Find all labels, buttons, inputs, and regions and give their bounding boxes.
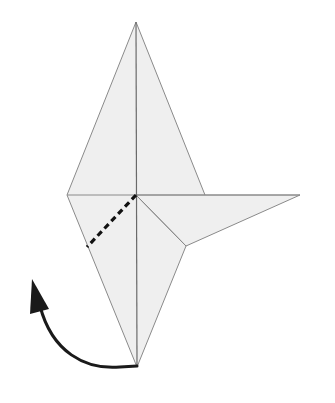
origami-diagram — [0, 0, 335, 403]
fold-arrow-head — [30, 279, 49, 314]
